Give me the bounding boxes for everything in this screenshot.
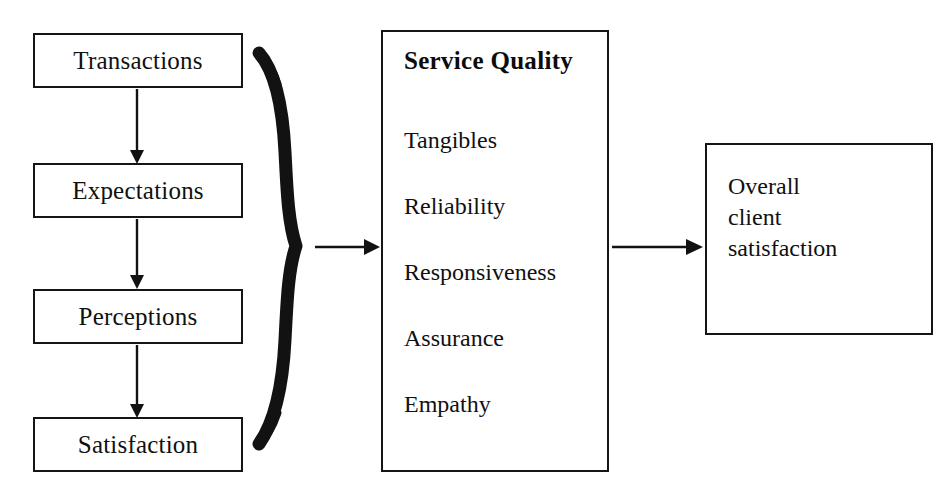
service-quality-dimension-list: Tangibles Reliability Responsiveness Ass… — [404, 128, 601, 416]
arrow-service-quality-to-outcome — [612, 239, 703, 255]
diagram-canvas: Transactions Expectations Perceptions Sa… — [0, 0, 951, 495]
arrow-perceptions-to-satisfaction — [130, 345, 144, 418]
dimension-assurance: Assurance — [404, 326, 601, 350]
outcome-line-3: satisfaction — [728, 233, 837, 264]
outcome-box-overall-client-satisfaction[interactable]: Overall client satisfaction — [705, 143, 933, 335]
arrow-expectations-to-perceptions — [130, 219, 144, 289]
stage-label-expectations: Expectations — [72, 177, 204, 205]
stage-label-satisfaction: Satisfaction — [78, 431, 198, 459]
service-quality-panel[interactable]: Service Quality Tangibles Reliability Re… — [381, 30, 609, 472]
arrow-transactions-to-expectations — [130, 89, 144, 164]
dimension-reliability: Reliability — [404, 194, 601, 218]
outcome-text-block: Overall client satisfaction — [728, 171, 837, 265]
dimension-empathy: Empathy — [404, 392, 601, 416]
dimension-responsiveness: Responsiveness — [404, 260, 601, 284]
dimension-tangibles: Tangibles — [404, 128, 601, 152]
stage-label-perceptions: Perceptions — [79, 303, 198, 331]
stage-box-satisfaction[interactable]: Satisfaction — [33, 417, 243, 472]
outcome-line-1: Overall — [728, 171, 837, 202]
stage-box-perceptions[interactable]: Perceptions — [33, 289, 243, 344]
service-quality-heading: Service Quality — [404, 47, 573, 75]
stage-box-expectations[interactable]: Expectations — [33, 163, 243, 218]
stage-box-transactions[interactable]: Transactions — [33, 33, 243, 88]
right-curly-brace-icon — [259, 53, 296, 444]
outcome-line-2: client — [728, 202, 837, 233]
stage-label-transactions: Transactions — [73, 47, 202, 75]
arrow-brace-to-service-quality — [315, 239, 380, 255]
